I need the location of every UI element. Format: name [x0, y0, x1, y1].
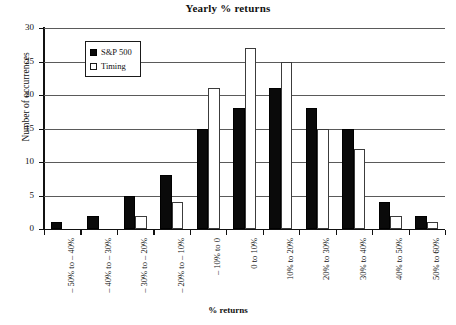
x-tick-label-1: – 40% to – 30%	[103, 238, 113, 293]
x-tick-mark-9	[372, 230, 373, 235]
x-tick-mark-10	[409, 230, 410, 235]
legend-swatch-sp500-icon	[90, 49, 97, 56]
y-tick-mark-10	[39, 162, 44, 163]
bar-sp500-1	[87, 216, 99, 229]
gridline-30	[44, 28, 445, 29]
x-tick-mark-1	[80, 230, 81, 235]
y-tick-label-5: 5	[8, 190, 34, 200]
y-tick-mark-5	[39, 196, 44, 197]
chart-title: Yearly % returns	[0, 2, 456, 14]
x-tick-mark-2	[117, 230, 118, 235]
x-tick-label-3: – 20% to – 10%	[176, 238, 186, 293]
bar-timing-3	[172, 202, 184, 229]
y-axis-title: Number of occurrences	[21, 27, 31, 167]
y-tick-mark-15	[39, 129, 44, 130]
bar-sp500-9	[379, 202, 391, 229]
bar-timing-9	[390, 216, 402, 229]
bar-timing-7	[317, 129, 329, 230]
legend-item-sp500: S&P 500	[90, 45, 136, 59]
x-tick-label-2: – 30% to – 20%	[139, 238, 149, 293]
bar-sp500-4	[197, 129, 209, 230]
bar-timing-5	[245, 48, 257, 229]
legend-swatch-timing-icon	[90, 63, 97, 70]
x-tick-label-4: – 10% to 0	[212, 238, 222, 275]
x-tick-mark-7	[299, 230, 300, 235]
legend-label-sp500: S&P 500	[101, 47, 132, 57]
x-tick-label-0: – 50% to – 40%	[66, 238, 76, 293]
bar-sp500-10	[415, 216, 427, 229]
bar-sp500-8	[342, 129, 354, 230]
bar-timing-8	[354, 149, 366, 229]
x-tick-mark-5	[226, 230, 227, 235]
x-tick-label-6: 10% to 20%	[285, 238, 295, 280]
y-tick-mark-30	[39, 28, 44, 29]
x-tick-mark-0	[44, 230, 45, 235]
bar-sp500-7	[306, 108, 318, 229]
chart-legend: S&P 500 Timing	[85, 41, 141, 77]
x-tick-label-9: 40% to 50%	[394, 238, 404, 280]
x-tick-mark-8	[336, 230, 337, 235]
x-axis-title: % returns	[0, 305, 456, 315]
legend-item-timing: Timing	[90, 59, 136, 73]
x-tick-mark-3	[153, 230, 154, 235]
bar-timing-10	[427, 222, 439, 229]
bar-sp500-2	[124, 196, 136, 230]
x-tick-label-5: 0 to 10%	[249, 238, 259, 269]
bar-sp500-6	[269, 88, 281, 229]
bar-sp500-0	[51, 222, 63, 229]
y-tick-label-0: 0	[8, 223, 34, 233]
x-tick-mark-end	[445, 230, 446, 235]
chart-container: Yearly % returns 051015202530 Number of …	[0, 0, 456, 325]
x-tick-label-7: 20% to 30%	[321, 238, 331, 280]
y-tick-mark-20	[39, 95, 44, 96]
x-tick-mark-4	[190, 230, 191, 235]
y-tick-mark-25	[39, 62, 44, 63]
x-tick-label-8: 30% to 40%	[358, 238, 368, 280]
bar-sp500-3	[160, 175, 172, 229]
bar-timing-4	[208, 88, 220, 229]
x-tick-label-10: 50% to 60%	[431, 238, 441, 280]
bar-sp500-5	[233, 108, 245, 229]
bar-timing-6	[281, 62, 293, 230]
x-tick-mark-6	[263, 230, 264, 235]
legend-label-timing: Timing	[101, 61, 126, 71]
bar-timing-2	[135, 216, 147, 229]
